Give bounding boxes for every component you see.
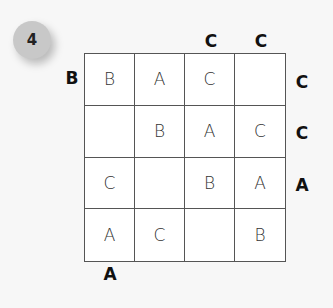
bottom-clue-col-1: A [98,264,122,284]
puzzle-number-badge: 4 [13,21,51,59]
cell-r3-c3[interactable]: B [185,158,235,210]
left-clue-row-1: B [60,68,84,88]
cell-r2-c4[interactable]: C [235,106,285,158]
top-clue-col-4: C [249,31,273,51]
right-clue-row-2: C [290,123,314,143]
right-clue-row-3: A [290,175,314,195]
cell-r4-c4[interactable]: B [235,209,285,261]
cell-r3-c4[interactable]: A [235,158,285,210]
right-clue-row-1: C [290,72,314,92]
cell-r4-c3[interactable] [185,209,235,261]
cell-r3-c2[interactable] [135,158,185,210]
cell-r1-c4[interactable] [235,54,285,106]
cell-r1-c3[interactable]: C [185,54,235,106]
cell-r2-c1[interactable] [85,106,135,158]
cell-r1-c1[interactable]: B [85,54,135,106]
top-clue-col-3: C [199,31,223,51]
cell-r2-c2[interactable]: B [135,106,185,158]
cell-r2-c3[interactable]: A [185,106,235,158]
cell-r3-c1[interactable]: C [85,158,135,210]
cell-r1-c2[interactable]: A [135,54,185,106]
cell-r4-c2[interactable]: C [135,209,185,261]
cell-r4-c1[interactable]: A [85,209,135,261]
puzzle-grid: B A C B A C C B A A C B [84,53,286,262]
